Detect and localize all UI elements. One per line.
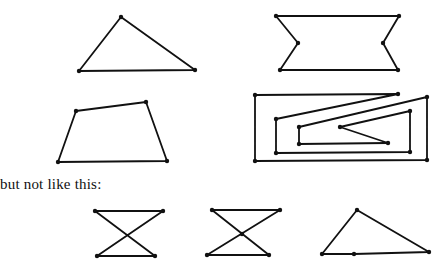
bowtie-b-figure <box>205 208 282 257</box>
bowtie-a-figure <box>93 209 165 258</box>
notched-hexagon-figure <box>274 14 401 72</box>
spiral-polygon-figure <box>253 92 429 163</box>
vertex-dot <box>386 141 390 145</box>
vertex-dot <box>95 254 99 258</box>
vertex-dot <box>396 68 400 72</box>
vertex-dot <box>161 209 165 213</box>
vertex-dot <box>274 14 278 18</box>
vertex-dot <box>144 100 148 104</box>
vertex-dot <box>320 252 324 256</box>
vertex-dot <box>253 93 257 97</box>
vertex-dot <box>77 69 81 73</box>
vertex-dot <box>267 253 271 257</box>
degenerate-triangle-figure <box>320 208 431 256</box>
vertex-dot <box>396 92 400 96</box>
vertex-dot <box>338 125 342 129</box>
vertex-dot <box>74 109 78 113</box>
vertex-dot <box>153 254 157 258</box>
vertex-dot <box>425 95 429 99</box>
caption-text: but not like this: <box>0 176 102 193</box>
vertex-dot <box>278 208 282 212</box>
vertex-dot <box>427 250 431 254</box>
vertex-dot <box>205 253 209 257</box>
vertex-dot <box>355 208 359 212</box>
vertex-dot <box>278 68 282 72</box>
vertex-dot <box>425 158 429 162</box>
polygon-figures <box>0 0 441 269</box>
vertex-dot <box>193 68 197 72</box>
vertex-dot <box>296 41 300 45</box>
vertex-dot <box>408 150 412 154</box>
vertex-dot <box>381 41 385 45</box>
vertex-dot <box>397 14 401 18</box>
vertex-dot <box>119 15 123 19</box>
vertex-dot <box>253 159 257 163</box>
vertex-dot <box>210 208 214 212</box>
vertex-dot <box>297 125 301 129</box>
vertex-dot <box>408 109 412 113</box>
vertex-dot <box>274 151 278 155</box>
quadrilateral-figure <box>56 100 169 164</box>
vertex-dot <box>274 117 278 121</box>
vertex-dot <box>240 232 244 236</box>
vertex-dot <box>165 159 169 163</box>
triangle-figure <box>77 15 197 73</box>
vertex-dot <box>93 209 97 213</box>
vertex-dot <box>352 252 356 256</box>
vertex-dot <box>297 142 301 146</box>
vertex-dot <box>56 160 60 164</box>
